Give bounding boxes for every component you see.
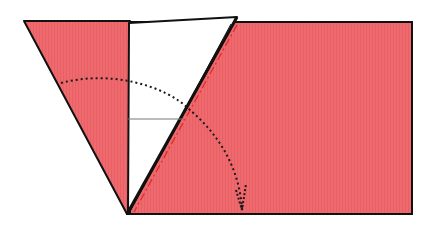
- origami-diagram: [0, 0, 442, 229]
- left-flap: [24, 21, 130, 214]
- fold-illustration: [0, 0, 442, 229]
